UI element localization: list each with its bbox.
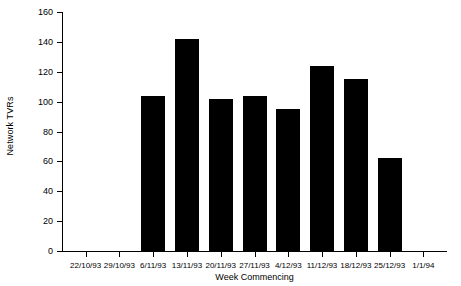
x-tick-mark: [153, 251, 154, 257]
x-tick-mark: [221, 251, 222, 257]
bar-chart: Network TVRs 020406080100120140160 22/10…: [0, 0, 461, 286]
y-tick-mark: [57, 221, 62, 222]
x-tick-label: 27/11/93: [239, 261, 270, 270]
x-tick-label: 4/12/93: [275, 261, 302, 270]
x-tick-label: 13/11/93: [172, 261, 203, 270]
x-tick-label: 25/12/93: [374, 261, 405, 270]
y-tick-label: 120: [38, 67, 53, 77]
bar: [243, 96, 267, 251]
y-tick-label: 140: [38, 37, 53, 47]
y-tick-mark: [57, 12, 62, 13]
y-axis-line: [62, 12, 63, 251]
y-tick-mark: [57, 102, 62, 103]
y-tick-label: 20: [43, 216, 53, 226]
x-tick-label: 11/12/93: [307, 261, 338, 270]
y-tick-label: 80: [43, 127, 53, 137]
x-tick-label: 18/12/93: [340, 261, 371, 270]
x-tick-mark: [423, 251, 424, 257]
bar: [276, 109, 300, 251]
y-tick-label: 40: [43, 186, 53, 196]
y-tick-label: 60: [43, 156, 53, 166]
x-tick-mark: [187, 251, 188, 257]
x-tick-mark: [356, 251, 357, 257]
y-tick-mark: [57, 251, 62, 252]
y-tick-mark: [57, 72, 62, 73]
x-tick-label: 1/1/94: [412, 261, 434, 270]
y-tick-label: 100: [38, 97, 53, 107]
bar: [141, 96, 165, 251]
bar: [209, 99, 233, 251]
x-tick-mark: [119, 251, 120, 257]
y-tick-mark: [57, 161, 62, 162]
bar: [310, 66, 334, 251]
x-tick-mark: [390, 251, 391, 257]
y-tick-mark: [57, 42, 62, 43]
y-tick-mark: [57, 132, 62, 133]
y-tick-mark: [57, 191, 62, 192]
x-tick-mark: [255, 251, 256, 257]
x-tick-label: 29/10/93: [104, 261, 135, 270]
x-tick-label: 6/11/93: [140, 261, 166, 270]
bar: [378, 158, 402, 251]
x-tick-label: 22/10/93: [70, 261, 101, 270]
x-axis-title: Week Commencing: [62, 272, 447, 282]
x-tick-label: 20/11/93: [205, 261, 236, 270]
plot-area: 020406080100120140160 22/10/9329/10/936/…: [62, 12, 447, 251]
x-tick-mark: [322, 251, 323, 257]
y-axis-title-text: Network TVRs: [5, 96, 15, 155]
x-tick-mark: [86, 251, 87, 257]
y-tick-label: 0: [48, 246, 53, 256]
y-axis-title: Network TVRs: [2, 0, 18, 251]
bar: [344, 79, 368, 251]
bar: [175, 39, 199, 251]
x-tick-mark: [288, 251, 289, 257]
y-tick-label: 160: [38, 7, 53, 17]
